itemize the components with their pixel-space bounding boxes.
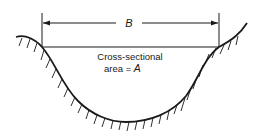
area-label-line2: area = A <box>104 62 141 74</box>
arrowhead-left-icon <box>43 21 50 26</box>
width-label: B <box>125 17 132 29</box>
arrowhead-right-icon <box>211 21 218 26</box>
area-symbol: A <box>133 62 141 74</box>
area-label-line1: Cross-sectional <box>97 51 162 62</box>
channel-cross-section-diagram: B Cross-section <box>0 0 263 140</box>
area-label-prefix: area = <box>104 63 134 74</box>
